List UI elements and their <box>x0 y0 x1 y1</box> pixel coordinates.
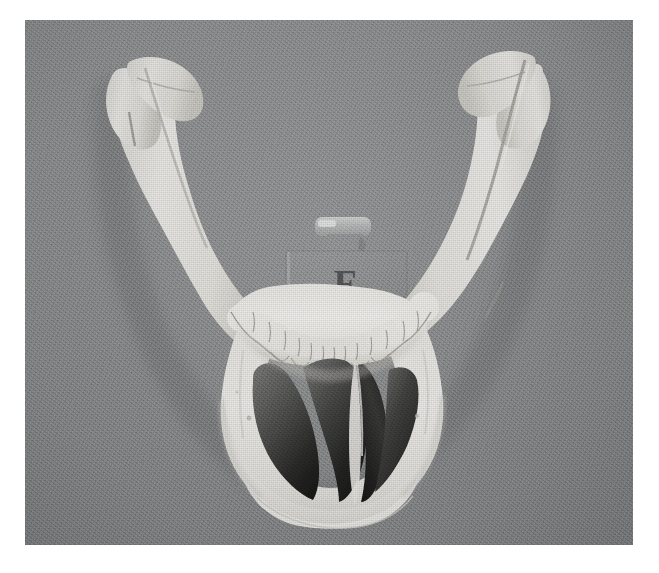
photo-haze <box>25 20 633 545</box>
mandible-illustration: F W <box>25 20 633 545</box>
page-canvas: F W <box>0 0 659 573</box>
specimen-photograph: F W <box>25 20 633 545</box>
